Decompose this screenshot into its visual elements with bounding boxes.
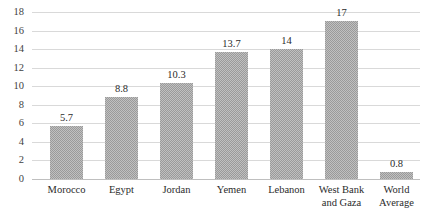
bar-yemen [215, 52, 248, 179]
bar-value-lebanon: 14 [256, 36, 317, 47]
bar-jordan [160, 83, 193, 179]
bar-slot-lebanon: 14 [270, 12, 303, 179]
y-tick-14: 14 [0, 44, 24, 55]
category-label-egypt: Egypt [93, 184, 150, 197]
bar-value-west-bank-and-gaza: 17 [311, 8, 372, 19]
y-tick-2: 2 [0, 155, 24, 166]
category-label-yemen: Yemen [203, 184, 260, 197]
bar-world-average [380, 172, 413, 179]
y-tick-8: 8 [0, 100, 24, 111]
bar-west-bank-and-gaza [325, 21, 358, 179]
y-tick-16: 16 [0, 25, 24, 36]
bar-morocco [50, 126, 83, 179]
bar-slot-west-bank-and-gaza: 17 [325, 12, 358, 179]
x-axis-category-labels: Morocco Egypt Jordan Yemen Lebanon West … [32, 184, 420, 223]
axis-baseline [32, 179, 420, 180]
bar-slot-egypt: 8.8 [105, 12, 138, 179]
category-label-lebanon: Lebanon [258, 184, 315, 197]
y-tick-0: 0 [0, 174, 24, 185]
category-label-jordan: Jordan [148, 184, 205, 197]
bar-slot-yemen: 13.7 [215, 12, 248, 179]
y-tick-6: 6 [0, 118, 24, 129]
bar-slot-jordan: 10.3 [160, 12, 193, 179]
category-label-morocco: Morocco [38, 184, 95, 197]
bar-slot-morocco: 5.7 [50, 12, 83, 179]
bar-value-jordan: 10.3 [146, 70, 207, 81]
plot-area: 5.7 8.8 10.3 13.7 14 17 [32, 12, 420, 179]
bar-slot-world-average: 0.8 [380, 12, 413, 179]
bar-value-morocco: 5.7 [36, 113, 97, 124]
y-tick-18: 18 [0, 7, 24, 18]
category-label-world-average: World Average [368, 184, 422, 209]
bar-lebanon [270, 49, 303, 179]
bar-egypt [105, 97, 138, 179]
y-axis-tick-labels: 0 2 4 6 8 10 12 14 16 18 [0, 0, 28, 223]
category-label-west-bank-and-gaza: West Bank and Gaza [313, 184, 370, 209]
bar-value-yemen: 13.7 [201, 39, 262, 50]
bar-chart: 0 2 4 6 8 10 12 14 16 18 5.7 8.8 [0, 0, 422, 223]
bar-value-world-average: 0.8 [366, 159, 422, 170]
y-tick-4: 4 [0, 137, 24, 148]
bar-value-egypt: 8.8 [91, 84, 152, 95]
y-tick-12: 12 [0, 62, 24, 73]
bar-series: 5.7 8.8 10.3 13.7 14 17 [32, 12, 420, 179]
y-tick-10: 10 [0, 81, 24, 92]
